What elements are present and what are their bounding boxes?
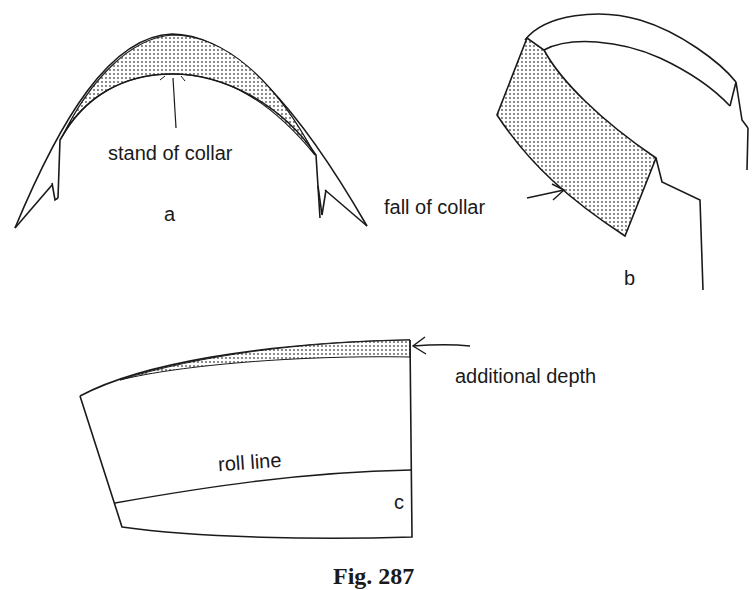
panel-c-label: c	[394, 492, 404, 512]
panel-b-label: b	[624, 268, 635, 288]
additional-depth-label: additional depth	[455, 366, 596, 386]
figure-caption: Fig. 287	[333, 563, 414, 590]
panel-a-label: a	[164, 204, 175, 224]
panel-a-drawing	[15, 34, 367, 228]
stand-of-collar-label: stand of collar	[108, 143, 233, 163]
depth-arrow	[413, 337, 470, 354]
roll-line-label: roll line	[217, 450, 282, 474]
panel-b-drawing	[497, 14, 748, 290]
panel-c-drawing	[80, 340, 412, 538]
fall-of-collar-label: fall of collar	[384, 197, 485, 217]
